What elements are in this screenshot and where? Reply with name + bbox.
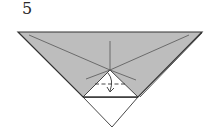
white-bottom-point xyxy=(83,97,138,127)
origami-diagram xyxy=(0,0,218,132)
